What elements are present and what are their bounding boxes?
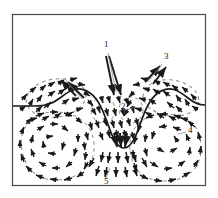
callout-label-2: 2 [121,102,126,111]
callout-label-1: 1 [104,40,109,49]
callout-label-5: 5 [104,177,109,186]
callout-label-3: 3 [164,52,169,61]
callout-label-4: 4 [188,126,193,135]
vector-field-figure [0,0,218,198]
figure-canvas: 1 2 3 4 5 [0,0,218,198]
